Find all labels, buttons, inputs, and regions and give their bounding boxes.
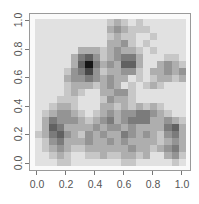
y-tick-label: 0.2 xyxy=(11,119,25,149)
heatmap-cell xyxy=(179,131,186,138)
heatmap-cell xyxy=(107,138,114,145)
heatmap-cell xyxy=(143,54,150,61)
heatmap-cell xyxy=(107,19,114,26)
heatmap-cell xyxy=(93,117,100,124)
heatmap-cell xyxy=(107,131,114,138)
heatmap-cell xyxy=(164,19,171,26)
heatmap-cell xyxy=(57,82,64,89)
heatmap-cell xyxy=(93,110,100,117)
heatmap-cell xyxy=(157,19,164,26)
heatmap-cell xyxy=(49,103,56,110)
heatmap-cell xyxy=(114,124,121,131)
heatmap-cell xyxy=(85,96,92,103)
heatmap-cell xyxy=(121,75,128,82)
heatmap-cell xyxy=(164,75,171,82)
heatmap-cell xyxy=(78,152,85,159)
heatmap-cell xyxy=(157,33,164,40)
heatmap-cell xyxy=(121,103,128,110)
heatmap-cell xyxy=(150,19,157,26)
heatmap-cell xyxy=(42,145,49,152)
heatmap-cell xyxy=(100,145,107,152)
heatmap-cell xyxy=(114,19,121,26)
heatmap-cell xyxy=(128,61,135,68)
heatmap-cell xyxy=(157,68,164,75)
heatmap-cell xyxy=(136,61,143,68)
heatmap-cell xyxy=(164,103,171,110)
heatmap-cell xyxy=(78,145,85,152)
heatmap-cell xyxy=(121,82,128,89)
heatmap-cell xyxy=(78,54,85,61)
heatmap-cell xyxy=(85,75,92,82)
heatmap-cell xyxy=(143,47,150,54)
heatmap-cell xyxy=(172,103,179,110)
heatmap-cell xyxy=(49,138,56,145)
heatmap-cell xyxy=(57,54,64,61)
heatmap-cell xyxy=(136,124,143,131)
heatmap-cell xyxy=(64,145,71,152)
heatmap-cell xyxy=(42,152,49,159)
heatmap-cell xyxy=(150,61,157,68)
heatmap-cell xyxy=(128,47,135,54)
y-tick-label: 0.6 xyxy=(11,62,25,92)
heatmap-cell xyxy=(71,40,78,47)
heatmap-cell xyxy=(150,159,157,166)
heatmap-cell xyxy=(78,117,85,124)
heatmap-cell xyxy=(136,103,143,110)
heatmap-cell xyxy=(121,152,128,159)
heatmap-cell xyxy=(85,124,92,131)
heatmap-cell xyxy=(114,131,121,138)
heatmap-cell xyxy=(172,117,179,124)
heatmap-cell xyxy=(143,110,150,117)
heatmap-cell xyxy=(172,89,179,96)
heatmap-cell xyxy=(93,96,100,103)
heatmap-cell xyxy=(100,26,107,33)
heatmap-cell xyxy=(42,33,49,40)
heatmap-cell xyxy=(64,61,71,68)
heatmap-cell xyxy=(164,117,171,124)
heatmap-cell xyxy=(164,33,171,40)
heatmap-cell xyxy=(136,19,143,26)
heatmap-cell xyxy=(128,89,135,96)
heatmap-cell xyxy=(64,47,71,54)
heatmap-cell xyxy=(71,26,78,33)
heatmap-cell xyxy=(78,103,85,110)
heatmap-cell xyxy=(136,131,143,138)
heatmap-cell xyxy=(42,68,49,75)
heatmap-cell xyxy=(128,159,135,166)
heatmap-cell xyxy=(57,145,64,152)
y-tick-label: 1.0 xyxy=(11,5,25,35)
heatmap-cell xyxy=(100,96,107,103)
heatmap-cell xyxy=(136,26,143,33)
heatmap-cell xyxy=(136,145,143,152)
heatmap-cell xyxy=(71,103,78,110)
heatmap-cell xyxy=(71,131,78,138)
heatmap-cell xyxy=(172,96,179,103)
heatmap-cell xyxy=(71,54,78,61)
heatmap-cell xyxy=(42,47,49,54)
heatmap-cell xyxy=(78,159,85,166)
heatmap-cell xyxy=(157,159,164,166)
heatmap-cell xyxy=(136,75,143,82)
heatmap-cell xyxy=(85,159,92,166)
heatmap-cell xyxy=(93,152,100,159)
heatmap-cell xyxy=(100,89,107,96)
heatmap-cell xyxy=(42,103,49,110)
x-tick-3 xyxy=(123,171,124,175)
heatmap-cell xyxy=(136,152,143,159)
heatmap-cell xyxy=(85,40,92,47)
heatmap-cell xyxy=(114,75,121,82)
heatmap-cell xyxy=(179,96,186,103)
heatmap-cell xyxy=(128,68,135,75)
y-tick-3 xyxy=(25,77,29,78)
heatmap-cell xyxy=(179,54,186,61)
heatmap-cell xyxy=(35,110,42,117)
heatmap-cell xyxy=(128,124,135,131)
heatmap-cell xyxy=(150,124,157,131)
heatmap-cell xyxy=(114,138,121,145)
heatmap-cell xyxy=(157,110,164,117)
heatmap-cell xyxy=(164,96,171,103)
heatmap-cell xyxy=(128,40,135,47)
heatmap-cell xyxy=(164,138,171,145)
heatmap-cell xyxy=(164,61,171,68)
heatmap-cell xyxy=(107,75,114,82)
